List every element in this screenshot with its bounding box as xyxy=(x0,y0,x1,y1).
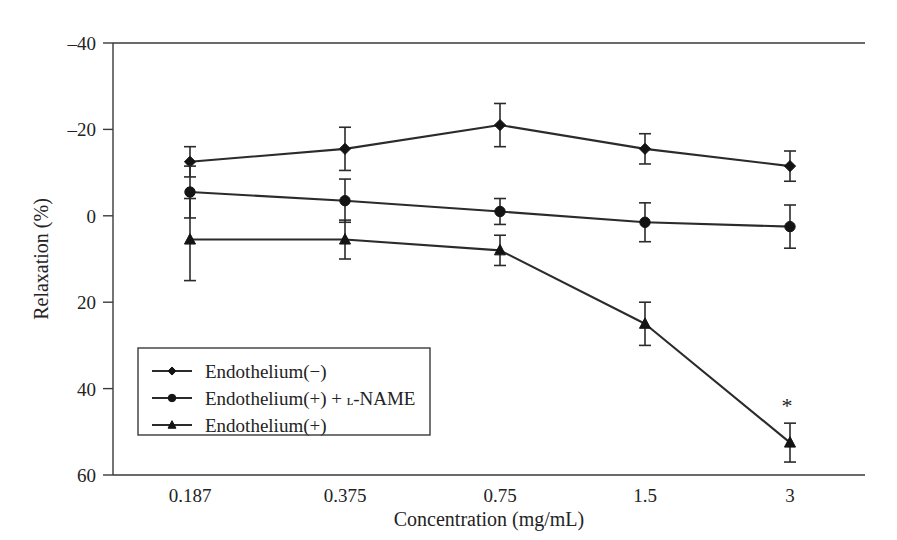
y-axis-ticks: –40–200204060 xyxy=(67,33,114,486)
legend-label: Endothelium(+) xyxy=(205,415,327,437)
relaxation-concentration-line-chart: –40–200204060 0.1870.3750.751.53 Relaxat… xyxy=(0,0,897,540)
y-tick-label: 20 xyxy=(77,292,96,313)
legend-label: Endothelium(−) xyxy=(205,361,327,383)
x-tick-label: 1.5 xyxy=(633,485,657,506)
diamond-marker xyxy=(494,119,505,130)
diamond-marker xyxy=(339,143,350,154)
figure-panel: –40–200204060 0.1870.3750.751.53 Relaxat… xyxy=(0,0,897,540)
y-tick-label: 60 xyxy=(77,465,96,486)
y-tick-label: –20 xyxy=(67,119,97,140)
x-tick-label: 0.187 xyxy=(169,485,212,506)
circle-marker xyxy=(340,195,350,205)
series-1 xyxy=(184,103,796,181)
legend-label: Endothelium(+) + ʟ-NAME xyxy=(205,388,415,410)
series-2 xyxy=(184,166,796,248)
circle-marker xyxy=(785,221,795,231)
y-axis-title: Relaxation (%) xyxy=(30,198,53,320)
x-tick-label: 0.75 xyxy=(483,485,516,506)
x-tick-label: 0.375 xyxy=(324,485,367,506)
triangle-marker xyxy=(639,318,650,329)
series-line xyxy=(190,125,790,166)
circle-marker xyxy=(168,394,175,401)
x-axis-title: Concentration (mg/mL) xyxy=(394,508,585,531)
y-tick-label: 0 xyxy=(87,206,97,227)
circle-marker xyxy=(185,187,195,197)
chart-legend: Endothelium(−)Endothelium(+) + ʟ-NAMEEnd… xyxy=(138,348,430,437)
diamond-marker xyxy=(639,143,650,154)
y-tick-label: –40 xyxy=(67,33,97,54)
circle-marker xyxy=(640,217,650,227)
x-tick-label: 3 xyxy=(785,485,795,506)
x-axis-tick-labels: 0.1870.3750.751.53 xyxy=(169,485,795,506)
significance-asterisk: * xyxy=(782,393,793,418)
y-tick-label: 40 xyxy=(77,379,96,400)
diamond-marker xyxy=(784,161,795,172)
circle-marker xyxy=(495,206,505,216)
series-line xyxy=(190,192,790,227)
significance-annotation-layer: * xyxy=(782,393,793,418)
